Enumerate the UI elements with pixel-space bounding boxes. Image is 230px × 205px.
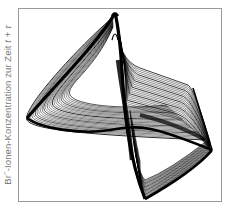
attractor-right-sheet (117, 23, 210, 150)
trajectory-line (115, 13, 145, 199)
attractor-plot (0, 0, 230, 205)
trajectory-line (112, 34, 118, 40)
